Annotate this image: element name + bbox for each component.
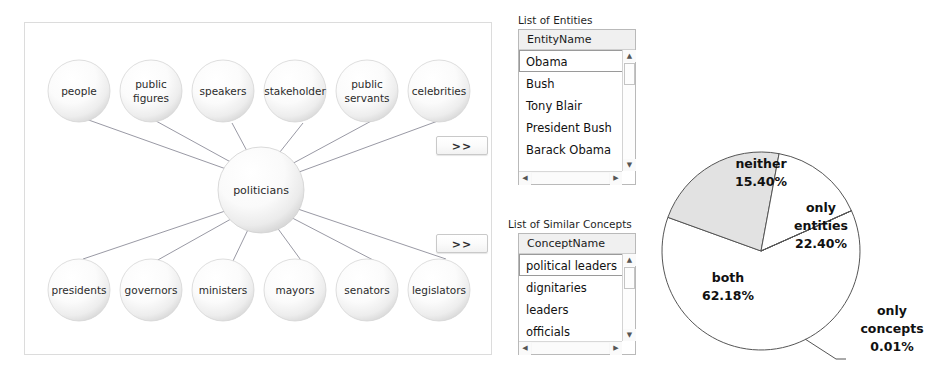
scrollbar-thumb[interactable] [624,63,635,85]
graph-node-bottom-row: presidents governors ministers mayors se… [48,259,470,321]
concept-graph-canvas: people public figures speakers stakehold… [25,23,491,354]
pie-value-text: 62.18% [702,288,755,303]
list-item[interactable]: officials [519,320,635,342]
scrollbar-thumb[interactable] [532,173,609,184]
list-item[interactable]: political leaders [519,254,635,276]
concepts-column-header: ConceptName [519,234,635,254]
expand-entities-button[interactable]: >> [436,136,488,155]
entities-column-header: EntityName [519,30,635,50]
concept-graph-panel: people public figures speakers stakehold… [24,22,492,355]
scrollbar-thumb[interactable] [624,267,635,289]
entities-list-body[interactable]: Obama Bush Tony Blair President Bush Bar… [519,50,635,184]
entities-list-frame: EntityName Obama Bush Tony Blair Preside… [518,29,636,185]
graph-node-public-servants[interactable]: public servants [336,60,398,122]
scroll-up-icon[interactable]: ▲ [623,50,636,62]
pie-label-text: only [806,200,836,215]
concepts-list-body[interactable]: political leaders dignitaries leaders of… [519,254,635,354]
concepts-list-panel: List of Similar Concepts ConceptName pol… [508,218,636,355]
graph-node-public-figures[interactable]: public figures [120,60,182,122]
pie-chart-canvas: both 62.18% only entities 22.40% neither… [650,140,947,384]
scroll-down-icon[interactable]: ▼ [623,159,636,171]
graph-node-people[interactable]: people [48,60,110,122]
concepts-list-title: List of Similar Concepts [508,218,636,230]
pie-label-text: neither [735,156,787,171]
graph-node-label-line1: public [351,78,383,90]
graph-node-governors[interactable]: governors [120,259,182,321]
list-item[interactable]: leaders [519,298,635,320]
concepts-vertical-scrollbar[interactable]: ▲ ▼ [622,254,635,341]
pie-slice-label-only-concepts: only concepts 0.01% [860,303,923,354]
expand-concepts-button[interactable]: >> [436,234,488,253]
list-item[interactable]: Obama [519,50,635,72]
list-item[interactable]: Tony Blair [519,94,635,116]
graph-node-stakeholder[interactable]: stakeholder [264,60,326,122]
graph-node-celebrities[interactable]: celebrities [408,60,470,122]
graph-node-label: legislators [412,284,466,296]
scroll-up-icon[interactable]: ▲ [623,254,636,266]
graph-node-mayors[interactable]: mayors [264,259,326,321]
pie-label-text-2: concepts [860,321,923,336]
graph-center-node-label: politicians [233,184,289,197]
graph-node-label: celebrities [412,85,466,97]
graph-node-label: presidents [52,284,107,296]
graph-node-label: speakers [200,85,247,97]
concepts-list-frame: ConceptName political leaders dignitarie… [518,233,636,355]
graph-node-label-line1: public [135,78,167,90]
scroll-left-icon[interactable]: ◀ [519,342,531,355]
pie-label-text: only [877,303,907,318]
graph-node-politicians-center[interactable]: politicians [218,147,304,233]
pie-label-text-2: entities [794,218,848,233]
list-item[interactable]: dignitaries [519,276,635,298]
graph-node-label: governors [125,284,178,296]
scrollbar-thumb[interactable] [532,343,609,354]
entities-vertical-scrollbar[interactable]: ▲ ▼ [622,50,635,171]
graph-node-label: ministers [199,284,248,296]
scroll-down-icon[interactable]: ▼ [623,329,636,341]
graph-node-label: mayors [275,284,314,296]
list-item[interactable]: Bush [519,72,635,94]
scroll-right-icon[interactable]: ▶ [610,172,622,185]
graph-node-ministers[interactable]: ministers [192,259,254,321]
graph-node-label-line2: servants [344,92,389,104]
graph-node-presidents[interactable]: presidents [48,259,110,321]
overlap-pie-chart: both 62.18% only entities 22.40% neither… [650,140,947,384]
list-item[interactable]: President Bush [519,116,635,138]
graph-node-label: senators [344,284,389,296]
graph-node-label-line2: figures [133,92,169,104]
graph-node-legislators[interactable]: legislators [408,259,470,321]
graph-node-label: stakeholder [264,85,326,97]
pie-value-text: 0.01% [870,339,914,354]
pie-value-text: 15.40% [735,174,788,189]
graph-node-top-row: people public figures speakers stakehold… [48,60,470,122]
entities-list-title: List of Entities [518,14,636,26]
pie-label-text: both [712,270,744,285]
graph-node-speakers[interactable]: speakers [192,60,254,122]
graph-node-label: people [61,85,97,97]
scroll-right-icon[interactable]: ▶ [610,342,622,355]
pie-value-text: 22.40% [795,236,848,251]
list-item[interactable]: Barack Obama [519,138,635,160]
graph-node-senators[interactable]: senators [336,259,398,321]
entities-list-panel: List of Entities EntityName Obama Bush T… [518,14,636,185]
concepts-horizontal-scrollbar[interactable]: ◀ ▶ [519,341,622,354]
only-concepts-callout-line [805,339,846,359]
entities-horizontal-scrollbar[interactable]: ◀ ▶ [519,171,622,184]
scroll-left-icon[interactable]: ◀ [519,172,531,185]
